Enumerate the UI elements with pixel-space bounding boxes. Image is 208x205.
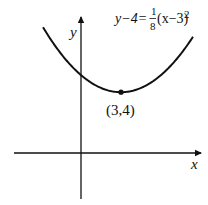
vertex-point xyxy=(118,90,123,95)
equation-fraction-numerator: 1 xyxy=(151,5,157,17)
equation: y−4= 1 8 (x−3) 2 xyxy=(113,5,190,32)
equation-lhs: y−4= xyxy=(113,11,147,26)
x-axis-label: x xyxy=(190,156,198,172)
vertex-label: (3,4) xyxy=(106,102,135,119)
y-axis-label: y xyxy=(68,24,77,40)
equation-exponent: 2 xyxy=(184,8,190,20)
parabola-curve xyxy=(43,27,193,92)
equation-fraction-denominator: 8 xyxy=(150,20,156,32)
parabola-figure: (3,4) y x y−4= 1 8 (x−3) 2 xyxy=(0,0,208,205)
